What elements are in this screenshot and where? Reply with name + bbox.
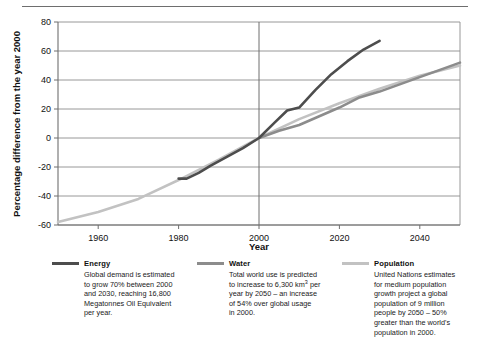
y-axis-title: Percentage difference from the year 2000 <box>11 31 22 217</box>
legend-item-energy: Energy Global demand is estimatedto grow… <box>52 258 197 350</box>
y-tick-label: -60 <box>38 220 51 230</box>
legend-description-population: United Nations estimatesfor medium popul… <box>374 270 481 337</box>
legend-description-line: per year. <box>84 308 192 318</box>
top-divider-rule <box>22 6 468 7</box>
legend-head-water: Water <box>197 258 342 269</box>
chart-page: -60-40-20020406080 19601980200020202040 … <box>0 0 481 355</box>
x-tick-label: 2040 <box>410 233 430 243</box>
legend-description-line: people by 2050 – 50% <box>374 308 481 318</box>
chart-legend: Energy Global demand is estimatedto grow… <box>52 258 472 350</box>
y-tick-label: -40 <box>38 191 51 201</box>
y-tick-label: 60 <box>41 46 51 56</box>
x-tick-label: 1960 <box>88 233 108 243</box>
y-tick-label: 0 <box>46 133 51 143</box>
legend-description-line: to grow 70% between 2000 <box>84 280 192 290</box>
legend-description-line: population of 9 million <box>374 299 481 309</box>
y-axis-ticks: -60-40-20020406080 <box>38 17 58 230</box>
legend-description-line: and 2030, reaching 16,800 <box>84 289 192 299</box>
legend-description-energy: Global demand is estimatedto grow 70% be… <box>84 270 192 318</box>
legend-description-line: United Nations estimates <box>374 270 481 280</box>
x-tick-label: 1980 <box>169 233 189 243</box>
x-tick-label: 2020 <box>329 233 349 243</box>
legend-description-line: Total world use is predicted <box>229 270 337 280</box>
legend-description-line: for medium population <box>374 280 481 290</box>
legend-description-line: of 54% over global usage <box>229 299 337 309</box>
legend-head-energy: Energy <box>52 258 197 269</box>
legend-head-population: Population <box>342 258 472 269</box>
legend-description-line: growth project a global <box>374 289 481 299</box>
legend-swatch-energy <box>52 262 79 265</box>
line-chart-figure: -60-40-20020406080 19601980200020202040 … <box>0 12 481 254</box>
legend-description-line: in 2000. <box>229 308 337 318</box>
legend-description-line: Megatonnes Oil Equivalent <box>84 299 192 309</box>
x-axis-title: Year <box>249 241 269 252</box>
y-tick-label: 80 <box>41 17 51 27</box>
y-tick-label: 40 <box>41 75 51 85</box>
legend-item-population: Population United Nations estimatesfor m… <box>342 258 472 350</box>
legend-title-population: Population <box>374 259 414 268</box>
legend-description-water: Total world use is predictedto increase … <box>229 270 337 318</box>
legend-description-line: to increase to 6,300 km3 per <box>229 280 337 290</box>
legend-swatch-water <box>197 262 224 265</box>
legend-description-line: year by 2050 – an increase <box>229 289 337 299</box>
y-tick-label: -20 <box>38 162 51 172</box>
y-tick-label: 20 <box>41 104 51 114</box>
legend-description-line: population in 2000. <box>374 328 481 338</box>
chart-svg: -60-40-20020406080 19601980200020202040 … <box>0 12 481 254</box>
legend-description-line: Global demand is estimated <box>84 270 192 280</box>
legend-description-line: greater than the world's <box>374 318 481 328</box>
legend-swatch-population <box>342 262 369 265</box>
legend-item-water: Water Total world use is predictedto inc… <box>197 258 342 350</box>
legend-title-energy: Energy <box>84 259 110 268</box>
legend-title-water: Water <box>229 259 250 268</box>
